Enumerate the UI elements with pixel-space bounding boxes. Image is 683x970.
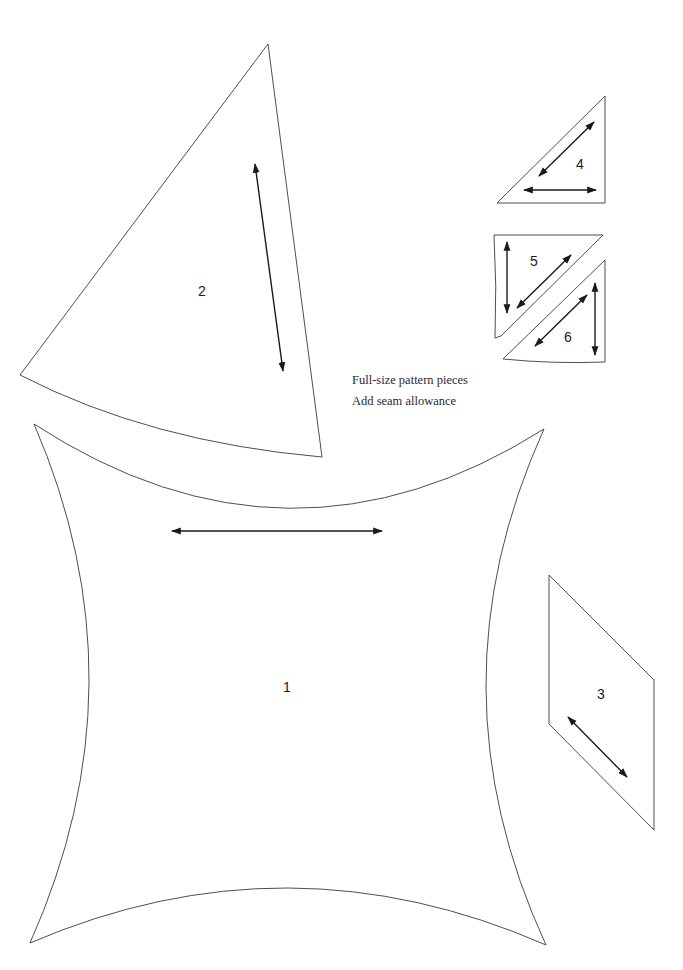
- piece-6-label: 6: [564, 329, 572, 345]
- piece-2-outline: [20, 44, 322, 457]
- note-full-size: Full-size pattern pieces: [352, 373, 468, 388]
- note-seam-allowance: Add seam allowance: [352, 394, 456, 409]
- pattern-piece-2: 2: [20, 44, 322, 457]
- piece-5-label: 5: [530, 253, 538, 269]
- piece-4-outline: [497, 96, 605, 203]
- piece-2-label: 2: [198, 283, 206, 299]
- piece-1-label: 1: [283, 679, 291, 695]
- piece-3-outline: [549, 575, 654, 830]
- pattern-piece-3: 3: [549, 575, 654, 830]
- pattern-piece-4: 4: [497, 96, 605, 203]
- piece-4-label: 4: [576, 156, 584, 172]
- piece-3-label: 3: [597, 686, 605, 702]
- pattern-piece-1: 1: [30, 424, 546, 945]
- pattern-sheet: 2 4 5 6 1 3: [0, 0, 683, 970]
